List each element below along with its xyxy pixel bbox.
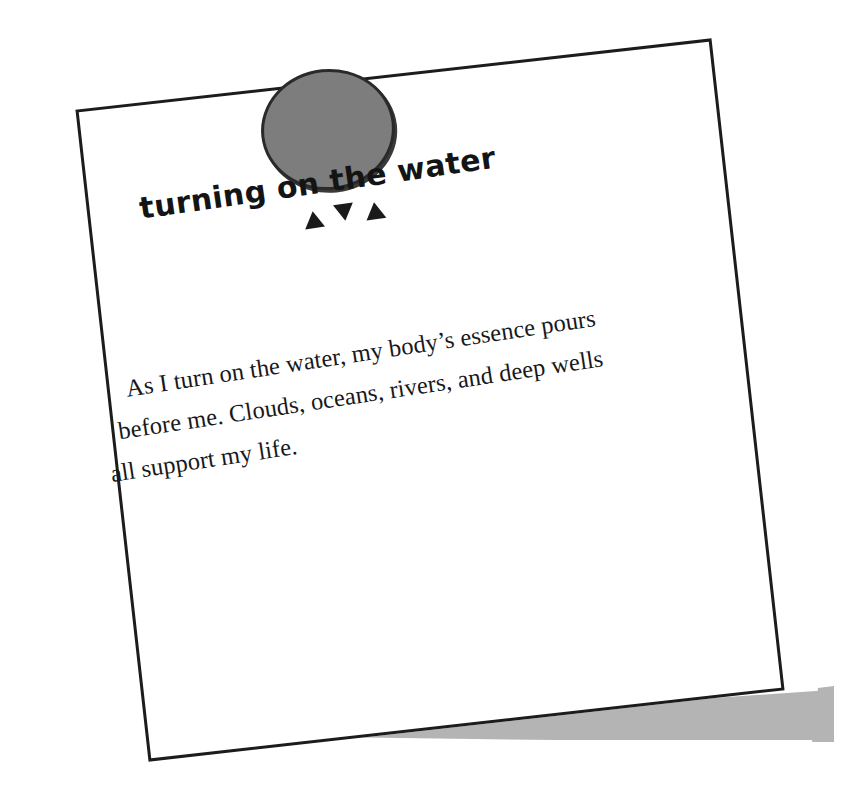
triangle-up-icon xyxy=(364,201,386,221)
shadow-wedge-edge xyxy=(812,686,834,742)
triangle-up-icon xyxy=(303,210,325,230)
page-canvas: turning on the water As I turn on the wa… xyxy=(0,0,846,804)
triangle-down-icon xyxy=(333,202,355,222)
